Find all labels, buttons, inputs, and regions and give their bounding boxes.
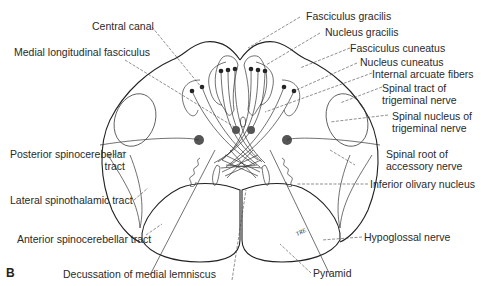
label-spinal-tract-trigeminal: Spinal tract of trigeminal nerve (382, 82, 457, 106)
label-decussation-medial-lemniscus: Decussation of medial lemniscus (63, 268, 216, 280)
label-spinal-nucleus-trigeminal: Spinal nucleus of trigeminal nerve (392, 110, 472, 134)
label-line-1: Posterior spinocerebellar (10, 148, 126, 160)
label-line-2: tract (105, 160, 125, 172)
label-nucleus-gracilis: Nucleus gracilis (325, 26, 399, 38)
pyramids (142, 184, 340, 262)
label-central-canal: Central canal (92, 20, 154, 32)
figure-panel-letter: B (6, 266, 15, 280)
label-posterior-spinocerebellar-tract: Posterior spinocerebellar tract (10, 148, 125, 172)
label-anterior-spinocerebellar-tract: Anterior spinocerebellar tract (17, 233, 151, 245)
artist-initials: TRE (295, 227, 308, 237)
label-spinal-root-accessory-nerve: Spinal root of accessory nerve (386, 148, 462, 172)
label-line-1: Spinal tract of (382, 82, 446, 94)
label-pyramid: Pyramid (313, 267, 352, 279)
label-line-2: trigeminal nerve (382, 94, 457, 106)
label-fasciculus-cuneatus: Fasciculus cuneatus (350, 42, 445, 54)
label-nucleus-cuneatus: Nucleus cuneatus (360, 56, 443, 68)
label-inferior-olivary-nucleus: Inferior olivary nucleus (370, 178, 475, 190)
label-line-2: trigeminal nerve (392, 122, 467, 134)
label-line-1: Spinal nucleus of (392, 110, 472, 122)
internal-arcuate-fibers (192, 69, 294, 167)
label-hypoglossal-nerve: Hypoglossal nerve (364, 231, 450, 243)
label-line-2: accessory nerve (386, 160, 462, 172)
label-lateral-spinothalamic-tract: Lateral spinothalamic tract (10, 194, 133, 206)
label-internal-arcuate-fibers: Internal arcuate fibers (372, 68, 474, 80)
label-medial-longitudinal-fasciculus: Medial longitudinal fasciculus (14, 46, 150, 58)
label-fasciculus-gracilis: Fasciculus gracilis (306, 10, 391, 22)
label-line-1: Spinal root of (386, 148, 448, 160)
